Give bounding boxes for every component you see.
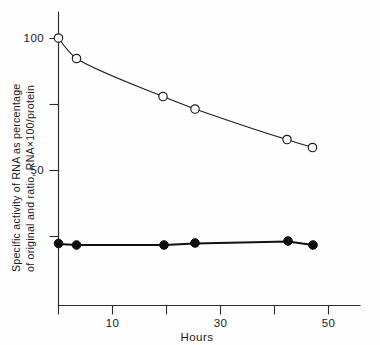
x-axis-title: Hours — [180, 331, 213, 343]
data-point-open-1 — [72, 54, 80, 62]
x-tick-label-30: 30 — [214, 317, 228, 329]
x-tick-label-50: 50 — [322, 317, 336, 329]
data-point-open-5 — [308, 143, 316, 151]
series-open-circle-line — [59, 38, 313, 148]
data-point-filled-1 — [72, 241, 81, 250]
data-point-filled-4 — [284, 237, 293, 246]
data-point-open-3 — [191, 105, 199, 113]
y-axis-label-line1: Specific activity of RNA as percentage — [10, 83, 22, 272]
chart-canvas: Specific activity of RNA as percentage o… — [0, 0, 380, 345]
y-axis-label-line2: of original and ratio, RNA×100/protein — [24, 85, 36, 272]
y-tick-label-50: 50 — [30, 164, 44, 176]
data-point-filled-0 — [54, 239, 63, 248]
x-axis-ticks — [59, 306, 329, 315]
y-tick-label-100: 100 — [24, 32, 44, 44]
data-point-filled-5 — [309, 241, 318, 250]
x-tick-label-10: 10 — [106, 317, 120, 329]
data-point-filled-3 — [191, 239, 200, 248]
data-point-open-2 — [159, 92, 167, 100]
data-point-filled-2 — [160, 241, 169, 250]
chart-figure: Specific activity of RNA as percentage o… — [0, 0, 380, 345]
data-point-open-0 — [54, 34, 62, 42]
y-axis-ticks — [50, 39, 59, 237]
series-filled-circle-line — [59, 242, 314, 246]
data-point-open-4 — [283, 135, 291, 143]
series-open-circle-markers — [54, 34, 316, 152]
y-axis-label: Specific activity of RNA as percentage o… — [10, 83, 36, 272]
